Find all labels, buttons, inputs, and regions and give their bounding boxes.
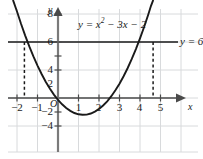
x-tick-label-3: 3 <box>114 102 125 113</box>
horizontal-line-label: y = 6 <box>180 36 203 47</box>
y-tick-label-4: 4 <box>41 64 53 75</box>
x-tick-label-2: 2 <box>93 102 104 113</box>
origin-label: O <box>50 99 57 109</box>
parabola-equation-label: y = x2 − 3x − 2 <box>78 17 146 30</box>
equation-suffix: − 3x − 2 <box>104 18 146 30</box>
y-tick-label-minus-4: −4 <box>36 120 53 131</box>
y-tick-label-2: 2 <box>41 78 53 89</box>
x-tick-label-1: 1 <box>73 102 84 113</box>
graph-figure: 8 6 4 2 −2 −4 −2 −1 1 2 3 4 5 O y x y = … <box>0 0 203 159</box>
x-tick-label-5: 5 <box>155 102 166 113</box>
x-axis-label: x <box>188 102 192 112</box>
y-axis-label: y <box>48 5 52 15</box>
equation-prefix: y = x <box>78 18 101 30</box>
x-tick-label-4: 4 <box>134 102 145 113</box>
x-tick-label-minus-2: −2 <box>9 102 25 113</box>
x-tick-label-minus-1: −1 <box>29 102 45 113</box>
y-tick-label-6: 6 <box>41 36 53 47</box>
